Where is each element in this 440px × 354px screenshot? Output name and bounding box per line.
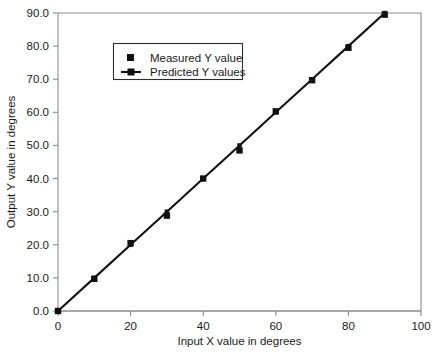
svg-text:0: 0 (55, 320, 61, 332)
legend-label-measured: Measured Y value (150, 52, 242, 64)
y-axis-ticks: 0.010.020.030.040.050.060.070.080.090.0 (27, 7, 58, 317)
svg-text:20.0: 20.0 (27, 239, 49, 251)
svg-text:0.0: 0.0 (33, 305, 49, 317)
y-axis-title: Output Y value in degrees (5, 95, 17, 228)
x-axis-ticks: 020406080100 (55, 311, 431, 332)
legend-label-predicted: Predicted Y values (150, 66, 246, 78)
svg-text:60: 60 (269, 320, 282, 332)
chart-figure: 020406080100 0.010.020.030.040.050.060.0… (0, 0, 440, 354)
svg-text:50.0: 50.0 (27, 139, 49, 151)
svg-text:40: 40 (197, 320, 210, 332)
svg-text:20: 20 (124, 320, 137, 332)
svg-text:80.0: 80.0 (27, 40, 49, 52)
svg-text:60.0: 60.0 (27, 106, 49, 118)
svg-text:40.0: 40.0 (27, 173, 49, 185)
svg-text:70.0: 70.0 (27, 73, 49, 85)
chart-legend: Measured Y value Predicted Y values (114, 44, 246, 80)
legend-square-marker-icon (127, 54, 134, 61)
chart-canvas: 020406080100 0.010.020.030.040.050.060.0… (0, 0, 440, 354)
svg-text:100: 100 (411, 320, 430, 332)
x-axis-title: Input X value in degrees (177, 335, 301, 347)
legend-line-square-marker-icon (128, 69, 135, 76)
svg-text:80: 80 (342, 320, 355, 332)
svg-text:10.0: 10.0 (27, 272, 49, 284)
svg-text:90.0: 90.0 (27, 7, 49, 19)
svg-text:30.0: 30.0 (27, 206, 49, 218)
